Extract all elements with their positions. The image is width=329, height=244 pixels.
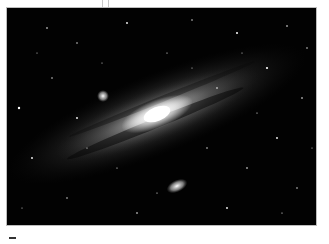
divider-line-left [102,0,103,8]
divider-line-right [108,0,109,8]
galaxy-photo [7,8,316,225]
main-galaxy [7,17,316,211]
companion-galaxy-m32 [97,90,109,102]
caption-mark [9,237,16,239]
companion-galaxy-m110 [164,176,189,196]
andromeda-galaxy-image [7,8,316,225]
